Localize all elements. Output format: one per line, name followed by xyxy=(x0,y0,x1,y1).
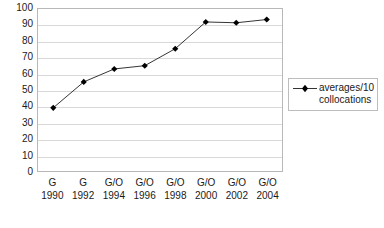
x-tick-category: G/O xyxy=(129,176,160,189)
x-tick-category: G/O xyxy=(99,176,130,189)
y-tick-label: 100 xyxy=(0,3,33,13)
y-axis: 0102030405060708090100 xyxy=(0,0,33,228)
x-tick-year: 1994 xyxy=(99,189,130,202)
y-tick-label: 10 xyxy=(0,151,33,161)
x-tick-year: 1992 xyxy=(68,189,99,202)
x-tick-year: 2000 xyxy=(191,189,222,202)
data-point-marker xyxy=(111,66,117,72)
legend-label: averages/10 collocations xyxy=(318,82,374,106)
y-tick-label: 60 xyxy=(0,69,33,79)
x-tick-label: G/O2002 xyxy=(222,176,253,202)
data-point-marker xyxy=(233,20,239,26)
legend-line-diamond-icon xyxy=(292,83,318,94)
legend-item: averages/10 collocations xyxy=(292,82,374,106)
x-tick-label: G1992 xyxy=(68,176,99,202)
x-tick-label: G/O1996 xyxy=(129,176,160,202)
legend: averages/10 collocations xyxy=(288,78,378,111)
series-averages-per-10-collocations xyxy=(38,9,282,171)
x-tick-label: G/O1998 xyxy=(160,176,191,202)
legend-label-line1: averages/10 xyxy=(319,82,374,93)
x-tick-label: G1990 xyxy=(37,176,68,202)
x-tick-category: G/O xyxy=(252,176,283,189)
x-tick-category: G xyxy=(37,176,68,189)
y-tick-label: 0 xyxy=(0,167,33,177)
y-tick-label: 80 xyxy=(0,36,33,46)
y-tick-label: 50 xyxy=(0,85,33,95)
data-point-marker xyxy=(264,16,270,22)
x-tick-label: G/O2000 xyxy=(191,176,222,202)
x-tick-category: G/O xyxy=(160,176,191,189)
y-tick-label: 30 xyxy=(0,118,33,128)
x-tick-year: 2004 xyxy=(252,189,283,202)
x-tick-label: G/O2004 xyxy=(252,176,283,202)
y-tick-label: 20 xyxy=(0,134,33,144)
data-point-marker xyxy=(142,63,148,69)
x-tick-category: G/O xyxy=(191,176,222,189)
y-tick-label: 70 xyxy=(0,52,33,62)
x-tick-year: 1990 xyxy=(37,189,68,202)
x-tick-year: 1996 xyxy=(129,189,160,202)
series-line xyxy=(53,20,266,108)
x-axis: G1990G1992G/O1994G/O1996G/O1998G/O2000G/… xyxy=(37,176,283,216)
plot-area xyxy=(37,8,283,172)
y-tick-label: 90 xyxy=(0,19,33,29)
x-tick-label: G/O1994 xyxy=(99,176,130,202)
x-tick-year: 1998 xyxy=(160,189,191,202)
x-tick-category: G/O xyxy=(222,176,253,189)
x-tick-year: 2002 xyxy=(222,189,253,202)
y-tick-label: 40 xyxy=(0,101,33,111)
legend-label-line2: collocations xyxy=(319,94,374,106)
line-chart: 0102030405060708090100 G1990G1992G/O1994… xyxy=(0,0,384,228)
x-tick-category: G xyxy=(68,176,99,189)
